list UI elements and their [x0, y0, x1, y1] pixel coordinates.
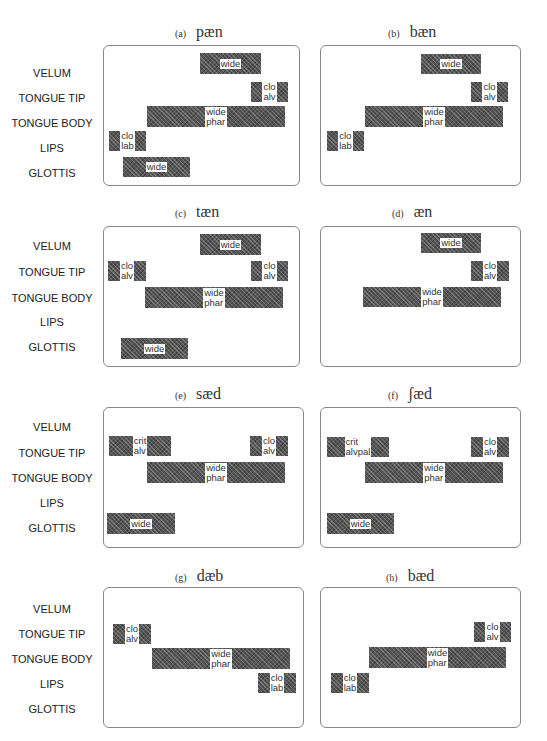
- gesture-label: clo alv: [120, 261, 134, 281]
- panel-title: (d)æn: [392, 203, 432, 221]
- gesture-bar-tongue-body: wide phar: [363, 287, 501, 307]
- gesture-label: clo alv: [125, 624, 139, 644]
- gesture-bar-tongue-body: wide phar: [147, 462, 285, 483]
- gesture-bar-glottis: wide: [121, 338, 188, 359]
- row-label-tongue-tip: TONGUE TIP: [2, 628, 102, 640]
- panel-tag: (e): [175, 390, 186, 401]
- row-label-tongue-body: TONGUE BODY: [2, 472, 102, 484]
- gesture-label: crit alv: [133, 436, 148, 456]
- gesture-bar-tongue-tip: clo alv: [251, 82, 288, 102]
- panel-word: tæn: [196, 203, 219, 220]
- gesture-bar-tongue-body: wide phar: [369, 647, 506, 668]
- gesture-bar-tongue-tip: clo alv: [471, 261, 509, 281]
- row-label-lips: LIPS: [2, 678, 102, 690]
- gesture-label: clo alv: [483, 261, 497, 281]
- panel-word: bæn: [410, 23, 437, 40]
- gesture-bar-velum: wide: [421, 54, 481, 74]
- gesture-bar-tongue-tip: clo alv: [471, 437, 509, 457]
- row-label-lips: LIPS: [2, 497, 102, 509]
- gesture-bar-tongue-tip: clo alv: [113, 624, 151, 644]
- gesture-label: clo alv: [483, 437, 497, 457]
- panel-tag: (h): [386, 572, 398, 583]
- panel-word: sæd: [196, 385, 221, 402]
- panel-tag: (f): [388, 390, 398, 401]
- gesture-label: wide: [146, 162, 168, 172]
- gesture-bar-velum: wide: [200, 234, 261, 255]
- gesture-bar-lips: clo lab: [327, 131, 364, 151]
- row-label-tongue-body: TONGUE BODY: [2, 653, 102, 665]
- panel-title: (c)tæn: [175, 203, 219, 221]
- gesture-bar-tongue-tip: clo alv: [250, 436, 288, 456]
- panel-word: æn: [414, 203, 433, 220]
- gesture-label: wide: [220, 240, 242, 250]
- row-label-velum: VELUM: [2, 67, 102, 79]
- row-label-velum: VELUM: [2, 421, 102, 433]
- gesture-label: clo lab: [343, 673, 358, 693]
- row-label-glottis: GLOTTIS: [2, 341, 102, 353]
- gesture-bar-lips: clo lab: [331, 673, 369, 693]
- gesture-label: wide: [440, 238, 462, 248]
- gesture-bar-glottis: wide: [107, 513, 175, 534]
- gesture-bar-tongue-tip: clo alv: [251, 261, 288, 281]
- panel-title: (g)dæb: [175, 567, 223, 585]
- panel-tag: (d): [392, 208, 404, 219]
- row-label-glottis: GLOTTIS: [2, 167, 102, 179]
- gesture-bar-glottis: wide: [123, 157, 190, 177]
- gesture-bar-lips: clo lab: [258, 673, 296, 693]
- row-label-lips: LIPS: [2, 142, 102, 154]
- panel-tag: (g): [175, 572, 187, 583]
- gesture-label: wide: [440, 59, 462, 69]
- row-label-glottis: GLOTTIS: [2, 522, 102, 534]
- panel-tag: (b): [388, 28, 400, 39]
- gesture-bar-glottis: wide: [327, 513, 394, 534]
- gesture-bar-lips: clo lab: [109, 131, 146, 151]
- gesture-label: clo alv: [262, 436, 276, 456]
- row-label-lips: LIPS: [2, 316, 102, 328]
- panel-title: (h)bæd: [386, 567, 434, 585]
- panel-title: (a)pæn: [175, 23, 223, 41]
- gesture-label: clo lab: [338, 131, 353, 151]
- panel-tag: (a): [175, 28, 186, 39]
- row-label-tongue-tip: TONGUE TIP: [2, 92, 102, 104]
- gesture-label: clo alv: [482, 82, 496, 102]
- panel-word: pæn: [196, 23, 223, 40]
- gesture-label: wide phar: [423, 107, 445, 127]
- gesture-bar-tongue-body: wide phar: [365, 106, 503, 127]
- panel-title: (e)sæd: [175, 385, 221, 403]
- panel-word: dæb: [197, 567, 224, 584]
- gesture-bar-tongue-body: wide phar: [145, 287, 283, 308]
- gesture-label: wide phar: [210, 649, 232, 669]
- panel-title: (b)bæn: [388, 23, 436, 41]
- row-label-velum: VELUM: [2, 603, 102, 615]
- gesture-label: wide phar: [205, 463, 227, 483]
- row-label-tongue-body: TONGUE BODY: [2, 292, 102, 304]
- panel-title: (f)ʃæd: [388, 385, 432, 403]
- gesture-label: wide: [130, 519, 152, 529]
- gesture-bar-tongue-body: wide phar: [365, 462, 503, 483]
- panel-tag: (c): [175, 208, 186, 219]
- gesture-label: wide phar: [427, 648, 449, 668]
- gesture-bar-tongue-body: wide phar: [147, 106, 285, 127]
- gesture-label: wide phar: [203, 288, 225, 308]
- row-label-velum: VELUM: [2, 240, 102, 252]
- gesture-bar-tongue-body: wide phar: [152, 648, 290, 669]
- gesture-label: clo alv: [262, 82, 276, 102]
- row-label-tongue-body: TONGUE BODY: [2, 117, 102, 129]
- gesture-bar-velum: wide: [200, 53, 261, 74]
- gesture-label: clo lab: [120, 131, 135, 151]
- gesture-label: clo lab: [270, 673, 285, 693]
- gesture-label: wide phar: [205, 107, 227, 127]
- gesture-label: wide: [220, 59, 242, 69]
- gesture-label: wide phar: [423, 463, 445, 483]
- gesture-bar-tongue-tip: crit alvpal: [327, 437, 389, 457]
- gesture-bar-tongue-tip: clo alv: [108, 261, 146, 281]
- gesture-bar-tongue-tip: crit alv: [109, 436, 171, 456]
- row-label-tongue-tip: TONGUE TIP: [2, 447, 102, 459]
- row-label-glottis: GLOTTIS: [2, 703, 102, 715]
- gesture-label: clo alv: [485, 622, 499, 642]
- gesture-bar-velum: wide: [421, 233, 481, 253]
- gesture-label: wide: [144, 344, 166, 354]
- panel-word: ʃæd: [408, 385, 432, 402]
- gesture-bar-tongue-tip: clo alv: [471, 82, 508, 102]
- gesture-label: wide phar: [421, 287, 443, 307]
